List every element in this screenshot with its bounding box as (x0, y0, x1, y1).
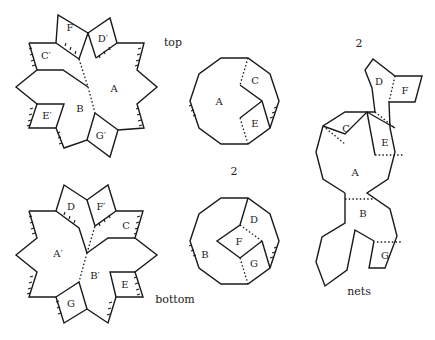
piece-label-G: G (250, 258, 258, 269)
piece-label-C: C′ (41, 50, 52, 61)
count-label-nets: 2 (356, 37, 363, 50)
piece-label-B: B′ (90, 270, 100, 281)
piece-label-A: A (109, 83, 118, 94)
top-star-figure: F D′ C′ A B E′ G′ (16, 15, 157, 157)
piece-label-A: A (350, 167, 359, 178)
piece-label-F: F (67, 22, 74, 33)
piece-label-E: E (121, 279, 128, 290)
piece-label-F: F (402, 85, 409, 96)
caption-top: top (164, 36, 182, 49)
piece-label-G: G (381, 250, 389, 261)
piece-label-D: D (250, 214, 258, 225)
bottom-star-figure: D F′ C A′ B′ E G (16, 185, 157, 323)
dissection-diagram: F D′ C′ A B E′ G′ top D F′ C A′ B′ (0, 0, 435, 340)
piece-label-D: D′ (98, 33, 109, 44)
piece-label-C: C (342, 123, 350, 134)
caption-nets: nets (347, 285, 371, 298)
piece-label-F: F′ (96, 201, 106, 212)
piece-label-E: E (251, 118, 258, 129)
piece-label-E: E (381, 137, 388, 148)
piece-label-G: G (67, 298, 75, 309)
dodecagon-top-figure: A C E (189, 58, 279, 144)
piece-label-G: G′ (96, 130, 107, 141)
piece-label-A: A′ (52, 248, 63, 259)
count-label-dodecagon-top: 2 (231, 165, 238, 178)
piece-label-E: E′ (42, 110, 52, 121)
piece-label-C: C (251, 75, 259, 86)
piece-label-B: B (359, 208, 366, 219)
piece-label-A: A (214, 96, 223, 107)
piece-label-F: F (236, 236, 243, 247)
piece-label-C: C (122, 220, 130, 231)
caption-bottom: bottom (155, 293, 195, 306)
dodecagon-bottom-figure: B D F G (189, 198, 279, 284)
piece-label-B: B (76, 103, 83, 114)
net-figure: D F C E A B G (316, 59, 422, 286)
piece-label-D: D (67, 201, 75, 212)
piece-label-B: B (201, 249, 208, 260)
piece-label-D: D (375, 76, 383, 87)
